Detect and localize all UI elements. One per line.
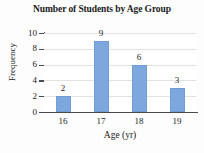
y-axis-tick-label: 8 [21, 44, 37, 53]
x-axis-tick-label: 18 [127, 116, 151, 126]
plot-area [44, 33, 196, 112]
bar-value-label: 6 [128, 53, 150, 62]
x-axis-tick-label: 17 [89, 116, 113, 126]
bar [170, 88, 185, 112]
y-axis-tick-label: 10 [21, 29, 37, 38]
bar-value-label: 3 [166, 76, 188, 85]
y-axis-title: Frequency [7, 32, 17, 92]
y-axis-tick-mark [39, 33, 44, 34]
gridline [44, 49, 196, 50]
x-axis-tick-label: 19 [165, 116, 189, 126]
bar [56, 96, 71, 112]
y-axis-tick-mark [39, 80, 44, 81]
y-axis-tick-label: 2 [21, 92, 37, 101]
x-axis-tick-label: 16 [51, 116, 75, 126]
y-axis-tick-label: 0 [21, 108, 37, 117]
y-axis-tick-mark [39, 112, 44, 113]
y-axis-tick-mark [39, 65, 44, 66]
gridline [44, 65, 196, 66]
y-axis-tick-label: 4 [21, 76, 37, 85]
bar [132, 65, 147, 112]
x-axis-title: Age (yr) [44, 130, 196, 140]
bar-value-label: 2 [52, 84, 74, 93]
gridline [44, 33, 196, 34]
y-axis-tick-mark [39, 96, 44, 97]
bar-value-label: 9 [90, 29, 112, 38]
y-axis-tick-labels: 1086420 [18, 0, 37, 153]
bar [94, 41, 109, 112]
y-axis-tick-label: 6 [21, 60, 37, 69]
x-axis-line [42, 112, 198, 113]
bar-chart: Number of Students by Age Group Frequenc… [0, 0, 204, 153]
y-axis-tick-mark [39, 49, 44, 50]
